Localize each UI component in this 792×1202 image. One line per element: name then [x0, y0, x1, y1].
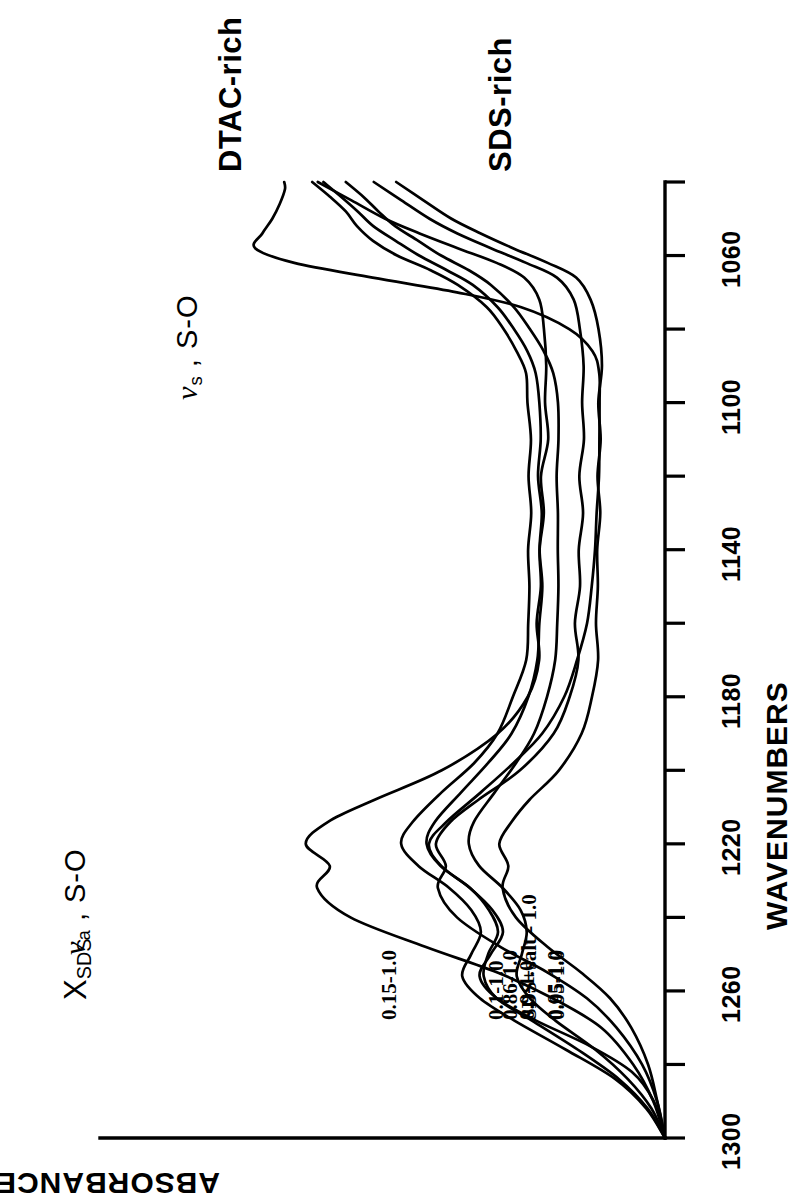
nu-subscript-sym: s	[185, 376, 206, 385]
x-tick-label-1140: 1140	[717, 525, 746, 581]
curve-label-0.15-1.0: 0.15-1.0	[377, 950, 402, 1020]
spectra-curves	[254, 182, 665, 1138]
x-subscript: SDS	[73, 939, 95, 980]
x-axis-title: WAVENUMBERS	[760, 681, 792, 930]
mode-rest-sym: , S-O	[171, 294, 203, 376]
region-label-dtac-rich: DTAC-rich	[213, 17, 249, 172]
x-symbol: X	[58, 979, 93, 1000]
x-tick-label-1300: 1300	[717, 1112, 746, 1170]
x-tick-label-1260: 1260	[717, 965, 746, 1023]
x-tick-label-1220: 1220	[717, 818, 746, 876]
x-tick-label-1100: 1100	[717, 378, 746, 434]
y-axis-title: ABSORBANCE	[0, 1166, 220, 1200]
x-tick-label-1180: 1180	[717, 673, 746, 729]
region-label-sds-rich: SDS-rich	[483, 37, 519, 172]
composition-variable-label: XSDS	[58, 939, 96, 1000]
spectrum-curve-SDS+salt - 1.0	[254, 182, 665, 1138]
nu-symbol-sym: ν	[170, 385, 204, 400]
mode-rest-asym: , S-O	[59, 848, 91, 930]
curve-label-0.95-1.0: 0.95-1.0	[545, 950, 570, 1020]
curve-label-0.9-1.0: 0.9-1.0	[515, 961, 540, 1021]
mode-label-nu-s-so: νs , S-O	[170, 294, 207, 400]
x-tick-label-1060: 1060	[717, 230, 746, 288]
